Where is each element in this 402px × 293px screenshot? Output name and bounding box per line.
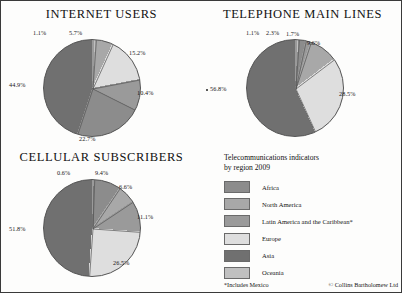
legend-label-oceania: Oceania bbox=[262, 269, 284, 276]
slice-label-asia: 51.8% bbox=[9, 225, 25, 232]
legend-swatch-north-america bbox=[224, 198, 250, 210]
legend-label-africa: Africa bbox=[262, 184, 279, 191]
legend-item-europe[interactable]: Europe bbox=[224, 232, 400, 246]
legend-item-north-america[interactable]: North America bbox=[224, 197, 400, 211]
chart-title-cellular: CELLULAR SUBSCRIBERS bbox=[1, 150, 202, 165]
legend-label-asia: Asia bbox=[262, 252, 274, 259]
slice-label-asia-text: 56.8% bbox=[210, 85, 226, 92]
slice-label-north-america: 6.6% bbox=[119, 183, 132, 190]
slice-label-europe: 28.5% bbox=[339, 90, 355, 97]
legend-swatch-africa bbox=[224, 181, 250, 193]
bullet-dot bbox=[206, 89, 208, 91]
pie-telephone-slices bbox=[246, 39, 344, 137]
chart-title-telephone: TELEPHONE MAIN LINES bbox=[202, 7, 402, 22]
legend-label-latin-america: Latin America and the Caribbean* bbox=[262, 218, 353, 225]
pie-internet-slices bbox=[43, 39, 141, 137]
legend-swatch-oceania bbox=[224, 267, 250, 279]
legend-label-europe: Europe bbox=[262, 235, 281, 242]
legend-swatch-europe bbox=[224, 233, 250, 245]
legend-item-oceania[interactable]: Oceania bbox=[224, 266, 400, 280]
legend-item-africa[interactable]: Africa bbox=[224, 180, 400, 194]
legend-swatch-asia bbox=[224, 250, 250, 262]
legend-item-asia[interactable]: Asia bbox=[224, 249, 400, 263]
copyright-credit: © Collins Bartholomew Ltd bbox=[329, 281, 399, 288]
legend-title-line2: by region 2009 bbox=[224, 163, 400, 173]
slice-label-latin-america: 11.1% bbox=[137, 213, 153, 220]
slice-label-asia: 44.9% bbox=[9, 81, 25, 88]
legend-swatch-latin-america bbox=[224, 215, 250, 227]
poster-page: INTERNET USERS 1.1% 5.7% 15.2% 10.4% 22.… bbox=[0, 0, 402, 293]
legend-panel: Telecommunications indicators by region … bbox=[202, 147, 402, 293]
chart-cellular-subscribers: CELLULAR SUBSCRIBERS 0.6% 9.4% 6.6% 11.1… bbox=[1, 147, 202, 293]
slice-label-north-america: 5.7% bbox=[69, 29, 82, 36]
slice-label-africa: 22.7% bbox=[79, 135, 95, 142]
slice-label-latin-america: 1.7% bbox=[286, 30, 299, 37]
slice-label-europe: 26.5% bbox=[113, 259, 129, 266]
legend-item-latin-america[interactable]: Latin America and the Caribbean* bbox=[224, 214, 400, 228]
slice-label-oceania: 1.1% bbox=[33, 29, 46, 36]
legend-footnote: *Includes Mexico bbox=[224, 281, 269, 288]
legend-title: Telecommunications indicators by region … bbox=[224, 153, 400, 173]
slice-label-oceania: 0.6% bbox=[57, 169, 70, 176]
slice-label-asia: 56.8% bbox=[206, 85, 226, 92]
slice-label-europe: 15.2% bbox=[129, 49, 145, 56]
slice-label-africa: 9.4% bbox=[95, 169, 108, 176]
legend-title-line1: Telecommunications indicators bbox=[224, 153, 400, 163]
slice-label-north-america: 9.6% bbox=[307, 39, 320, 46]
slice-label-oceania: 1.1% bbox=[246, 29, 259, 36]
slice-label-africa: 2.3% bbox=[266, 29, 279, 36]
slice-label-latin-america: 10.4% bbox=[137, 89, 153, 96]
legend-label-north-america: North America bbox=[262, 201, 301, 208]
chart-title-internet: INTERNET USERS bbox=[1, 7, 202, 22]
legend: Telecommunications indicators by region … bbox=[224, 153, 400, 283]
chart-internet-users: INTERNET USERS 1.1% 5.7% 15.2% 10.4% 22.… bbox=[1, 1, 202, 147]
chart-telephone-main-lines: TELEPHONE MAIN LINES 1.1% 2.3% 1.7% 9.6%… bbox=[202, 1, 402, 147]
